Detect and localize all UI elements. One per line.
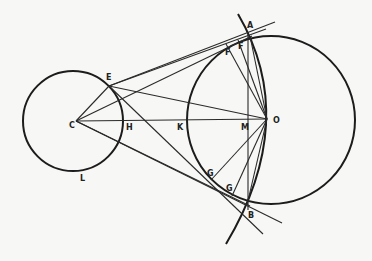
label-L: L [80, 174, 85, 183]
label-B: B [248, 211, 254, 220]
label-F2: F [238, 42, 243, 51]
label-O: O [273, 116, 280, 125]
label-E: E [106, 73, 111, 82]
line-CO [76, 119, 267, 121]
label-F1: F [225, 48, 230, 57]
label-G2: G [226, 184, 233, 193]
line-E-tangent-top2 [109, 29, 266, 86]
line-OB [247, 119, 267, 205]
label-M: M [241, 123, 249, 132]
line-CE [76, 86, 109, 121]
line-OF1 [226, 44, 267, 119]
line-E-tangent-bottom [109, 86, 263, 234]
label-H: H [126, 123, 133, 132]
label-K: K [177, 123, 184, 132]
geometry-diagram: A B C E F F G G H K L M O [0, 0, 372, 261]
label-C: C [69, 121, 75, 130]
label-G1: G [207, 169, 214, 178]
line-OA [250, 36, 267, 119]
label-A: A [247, 21, 254, 30]
